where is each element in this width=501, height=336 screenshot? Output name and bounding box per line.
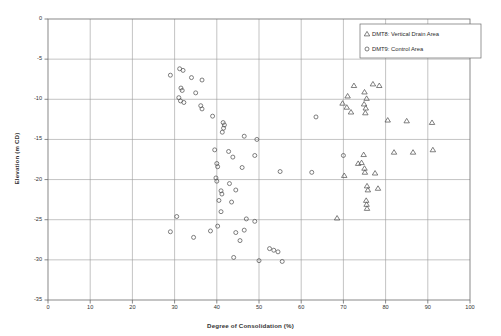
x-tick-label: 50: [244, 304, 274, 310]
x-tick-label: 90: [413, 304, 443, 310]
y-tick-label: 0: [18, 15, 42, 23]
y-tick-label: -20: [18, 176, 42, 184]
data-point-circle: [253, 153, 257, 157]
legend-entry-label-dmt8: DMT8: Vertical Drain Area: [372, 31, 439, 37]
data-point-circle: [314, 115, 318, 119]
y-tick-label: -30: [18, 256, 42, 264]
data-point-triangle: [430, 147, 435, 151]
data-point-triangle: [348, 110, 353, 114]
data-point-circle: [232, 255, 236, 259]
data-point-circle: [244, 217, 248, 221]
data-point-circle: [175, 215, 179, 219]
data-point-triangle: [363, 198, 368, 202]
data-point-circle: [180, 88, 184, 92]
data-point-circle: [227, 149, 231, 153]
data-point-triangle: [364, 96, 369, 100]
data-point-circle: [242, 134, 246, 138]
data-point-triangle: [375, 186, 380, 190]
scatter-chart: Degree of Consolidation (%) Elevation (m…: [0, 0, 501, 336]
x-tick-label: 60: [286, 304, 316, 310]
legend-entry-label-dmt9: DMT9: Control Area: [372, 46, 423, 52]
data-point-circle: [220, 130, 224, 134]
x-tick-label: 70: [328, 304, 358, 310]
data-point-triangle: [334, 216, 339, 220]
data-point-triangle: [372, 171, 377, 175]
data-point-circle: [194, 91, 198, 95]
data-point-circle: [219, 210, 223, 214]
data-point-circle: [272, 248, 276, 252]
data-point-triangle: [363, 110, 368, 114]
y-tick-label: -10: [18, 95, 42, 103]
grid-lines: [48, 19, 470, 300]
x-tick-label: 100: [455, 304, 485, 310]
data-point-triangle: [429, 120, 434, 124]
data-point-triangle: [377, 83, 382, 87]
data-point-triangle: [342, 173, 347, 177]
data-point-circle: [189, 76, 193, 80]
legend-box: [360, 24, 481, 58]
data-point-triangle: [362, 166, 367, 170]
data-point-triangle: [362, 89, 367, 93]
x-tick-label: 10: [75, 304, 105, 310]
data-point-circle: [213, 148, 217, 152]
data-point-triangle: [359, 160, 364, 164]
data-point-circle: [242, 228, 246, 232]
data-point-circle: [192, 235, 196, 239]
data-point-triangle: [410, 150, 415, 154]
data-point-circle: [182, 100, 186, 104]
data-point-triangle: [345, 93, 350, 97]
data-point-circle: [238, 239, 242, 243]
x-tick-label: 30: [160, 304, 190, 310]
data-point-circle: [216, 224, 220, 228]
data-point-triangle: [404, 118, 409, 122]
data-point-circle: [310, 170, 314, 174]
data-point-circle: [208, 229, 212, 233]
data-points: [168, 67, 435, 264]
data-point-triangle: [340, 101, 345, 105]
data-point-circle: [278, 170, 282, 174]
y-tick-label: -5: [18, 55, 42, 63]
data-point-triangle: [364, 183, 369, 187]
data-point-circle: [168, 73, 172, 77]
data-point-circle: [268, 247, 272, 251]
x-tick-label: 80: [371, 304, 401, 310]
y-tick-label: -15: [18, 135, 42, 143]
x-axis-title: Degree of Consolidation (%): [0, 322, 501, 329]
data-point-circle: [217, 198, 221, 202]
y-axis-title: Elevation (m CD): [13, 99, 20, 219]
plot-canvas: [0, 0, 501, 336]
data-point-triangle: [370, 81, 375, 85]
data-point-circle: [234, 231, 238, 235]
x-tick-label: 20: [117, 304, 147, 310]
data-point-circle: [240, 166, 244, 170]
data-point-circle: [200, 78, 204, 82]
data-point-circle: [221, 121, 225, 125]
data-point-triangle: [351, 83, 356, 87]
y-tick-label: -25: [18, 216, 42, 224]
data-point-circle: [181, 68, 185, 72]
x-tick-label: 0: [33, 304, 63, 310]
data-point-circle: [168, 230, 172, 234]
data-point-circle: [227, 182, 231, 186]
data-point-circle: [211, 114, 215, 118]
data-point-circle: [234, 188, 238, 192]
y-tick-label: -35: [18, 296, 42, 304]
data-point-triangle: [391, 150, 396, 154]
data-point-circle: [230, 200, 234, 204]
data-point-circle: [276, 250, 280, 254]
x-tick-label: 40: [202, 304, 232, 310]
data-point-circle: [179, 86, 183, 90]
data-point-circle: [231, 155, 235, 159]
data-point-triangle: [361, 152, 366, 156]
